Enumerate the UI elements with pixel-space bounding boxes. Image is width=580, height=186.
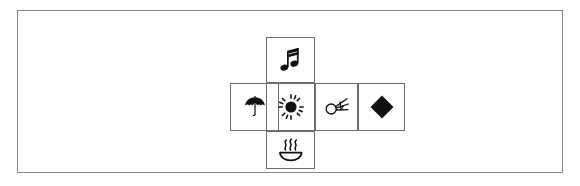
icon-cross bbox=[230, 37, 405, 169]
cell-bottom[interactable] bbox=[266, 131, 315, 169]
diagram-canvas bbox=[0, 0, 580, 186]
cell-center[interactable] bbox=[266, 83, 315, 131]
cell-right-inner[interactable] bbox=[315, 83, 358, 131]
firework-icon bbox=[323, 95, 351, 119]
sun-icon bbox=[278, 94, 304, 120]
hot-springs-icon bbox=[278, 138, 304, 162]
music-note-icon bbox=[280, 47, 302, 73]
diamond-icon bbox=[369, 94, 395, 120]
cell-right-outer[interactable] bbox=[358, 83, 405, 131]
cell-top[interactable] bbox=[266, 37, 315, 83]
umbrella-icon bbox=[243, 95, 267, 119]
outer-frame bbox=[17, 10, 563, 173]
